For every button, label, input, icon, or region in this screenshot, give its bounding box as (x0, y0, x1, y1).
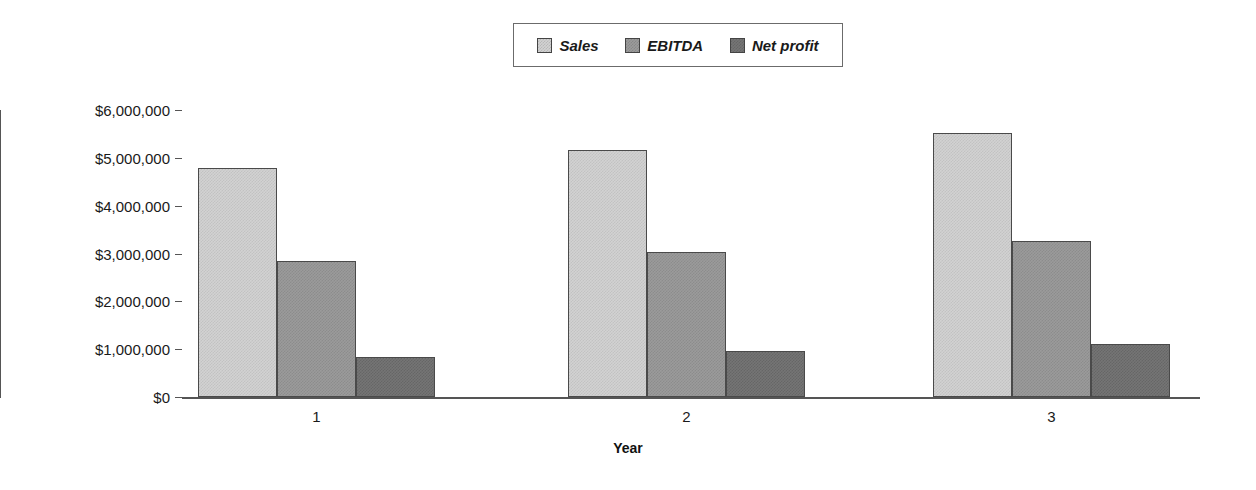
legend-item-sales: Sales (537, 37, 598, 54)
bar-ebitda-year-1 (277, 261, 356, 397)
y-axis-tick-mark (175, 301, 182, 302)
bar-chart: Sales EBITDA Net profit $6,000,000$5,000… (0, 0, 1256, 490)
y-axis-tick-label: $1,000,000 (50, 341, 170, 358)
bar-sales-year-1 (198, 168, 277, 397)
legend-item-ebitda: EBITDA (625, 37, 703, 54)
plot-area (182, 110, 1200, 397)
y-axis-tick-label: $2,000,000 (50, 293, 170, 310)
legend-swatch-ebitda (625, 38, 640, 53)
bar-sales-year-3 (933, 133, 1012, 397)
bar-net-profit-year-2 (726, 351, 805, 397)
y-axis-tick-labels: $6,000,000$5,000,000$4,000,000$3,000,000… (45, 0, 170, 490)
legend-swatch-net-profit (730, 38, 745, 53)
y-axis-tick-mark (175, 110, 182, 111)
legend-swatch-sales (537, 38, 552, 53)
legend-label-sales: Sales (559, 37, 598, 54)
x-axis-tick-label-1: 1 (257, 408, 377, 425)
y-axis-tick-label: $0 (50, 389, 170, 406)
y-axis-tick-mark (175, 158, 182, 159)
y-axis-tick-label: $3,000,000 (50, 245, 170, 262)
bar-net-profit-year-3 (1091, 344, 1170, 397)
chart-legend: Sales EBITDA Net profit (513, 23, 843, 67)
y-axis-tick-mark (175, 206, 182, 207)
legend-label-ebitda: EBITDA (647, 37, 703, 54)
x-axis-tick-label-2: 2 (627, 408, 747, 425)
y-axis-tick-mark (175, 349, 182, 350)
bar-ebitda-year-3 (1012, 241, 1091, 397)
y-axis-tick-label: $4,000,000 (50, 197, 170, 214)
y-axis-tick-label: $5,000,000 (50, 149, 170, 166)
bar-ebitda-year-2 (647, 252, 726, 397)
legend-item-net-profit: Net profit (730, 37, 819, 54)
y-axis-tick-mark (175, 397, 182, 398)
bar-sales-year-2 (568, 150, 647, 397)
legend-label-net-profit: Net profit (752, 37, 819, 54)
x-axis-tick-label-3: 3 (992, 408, 1112, 425)
y-axis-line (0, 110, 1, 398)
bar-net-profit-year-1 (356, 357, 435, 397)
y-axis-tick-label: $6,000,000 (50, 102, 170, 119)
y-axis-tick-mark (175, 254, 182, 255)
x-axis-line (182, 397, 1200, 399)
x-axis-title: Year (0, 440, 1256, 456)
